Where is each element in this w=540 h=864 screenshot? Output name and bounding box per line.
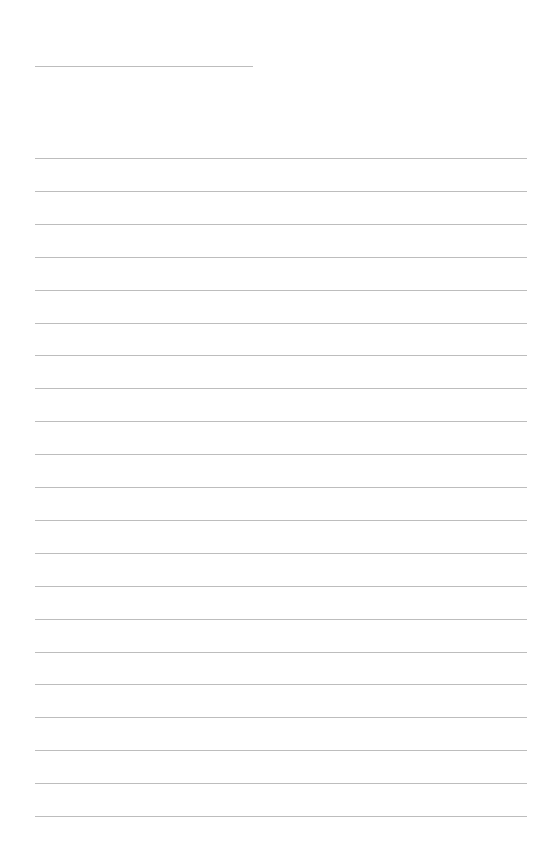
ruled-line[interactable]: [35, 520, 527, 521]
ruled-lines-area: [0, 0, 540, 864]
ruled-line[interactable]: [35, 487, 527, 488]
ruled-line[interactable]: [35, 191, 527, 192]
ruled-line[interactable]: [35, 783, 527, 784]
ruled-line[interactable]: [35, 158, 527, 159]
ruled-line[interactable]: [35, 553, 527, 554]
ruled-line[interactable]: [35, 290, 527, 291]
ruled-line[interactable]: [35, 619, 527, 620]
ruled-line[interactable]: [35, 652, 527, 653]
ruled-line[interactable]: [35, 750, 527, 751]
lined-page: [0, 0, 540, 864]
ruled-line[interactable]: [35, 355, 527, 356]
ruled-line[interactable]: [35, 224, 527, 225]
ruled-line[interactable]: [35, 816, 527, 817]
ruled-line[interactable]: [35, 717, 527, 718]
ruled-line[interactable]: [35, 323, 527, 324]
ruled-line[interactable]: [35, 454, 527, 455]
ruled-line[interactable]: [35, 684, 527, 685]
ruled-line[interactable]: [35, 388, 527, 389]
ruled-line[interactable]: [35, 421, 527, 422]
ruled-line[interactable]: [35, 586, 527, 587]
ruled-line[interactable]: [35, 257, 527, 258]
